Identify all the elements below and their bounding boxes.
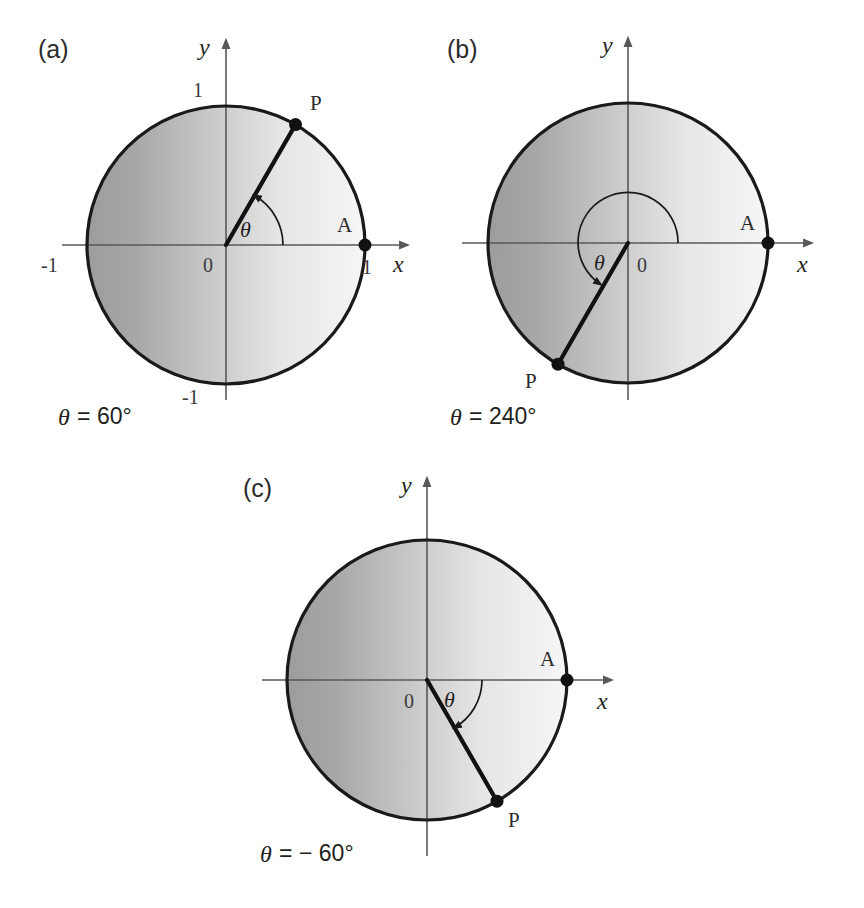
panel-a-theta-label: θ xyxy=(240,217,251,242)
panel-a-point-p xyxy=(289,118,302,131)
panel-b-label: (b) xyxy=(447,35,478,63)
panel-b-point-p xyxy=(552,358,565,371)
panel-a-x-axis-label: x xyxy=(392,251,404,277)
panel-b-caption: θ = 240° xyxy=(450,403,537,430)
panel-a-tick-y-positive: 1 xyxy=(193,79,203,101)
panel-b-x-axis-label: x xyxy=(796,251,808,277)
panel-c-origin-label: 0 xyxy=(404,690,414,712)
figure-container: (a) y x 1 -1 -1 1 0 P A θ θ = 60° xyxy=(0,0,864,908)
panel-c-point-a xyxy=(561,674,574,687)
unit-circle-figure: (a) y x 1 -1 -1 1 0 P A θ θ = 60° xyxy=(0,0,864,908)
panel-a-tick-x-positive: 1 xyxy=(362,256,372,278)
panel-b-point-a xyxy=(762,237,775,250)
panel-a: (a) y x 1 -1 -1 1 0 P A θ θ = 60° xyxy=(38,34,408,430)
panel-a-y-axis-label: y xyxy=(197,34,210,60)
panel-a-caption: θ = 60° xyxy=(58,403,132,430)
panel-a-origin-label: 0 xyxy=(203,254,213,276)
panel-c-label: (c) xyxy=(243,474,272,502)
panel-c-label-p: P xyxy=(508,808,520,832)
panel-b-caption-symbol: θ xyxy=(450,404,462,430)
panel-c: (c) y x 0 P A θ θ = − 60° xyxy=(243,472,612,867)
panel-a-point-a xyxy=(359,239,372,252)
panel-a-label: (a) xyxy=(38,35,69,63)
panel-a-label-p: P xyxy=(310,91,322,115)
panel-c-caption: θ = − 60° xyxy=(260,840,354,867)
panel-b-caption-equals: = xyxy=(469,403,482,429)
panel-b-label-a: A xyxy=(740,211,756,235)
panel-c-point-p xyxy=(491,795,504,808)
panel-b-caption-value: 240° xyxy=(489,403,537,429)
panel-a-tick-x-negative: -1 xyxy=(41,254,58,276)
panel-a-tick-y-negative: -1 xyxy=(182,386,199,408)
panel-b-theta-label: θ xyxy=(594,250,605,275)
panel-c-caption-equals: = xyxy=(279,840,292,866)
panel-c-label-a: A xyxy=(540,647,556,671)
panel-b-origin-label: 0 xyxy=(637,254,647,276)
panel-c-x-axis-label: x xyxy=(596,688,608,714)
panel-a-caption-value: 60° xyxy=(97,403,132,429)
panel-b-label-p: P xyxy=(525,369,537,393)
panel-c-caption-symbol: θ xyxy=(260,841,272,867)
panel-c-theta-label: θ xyxy=(444,687,455,712)
panel-a-label-a: A xyxy=(337,213,353,237)
panel-c-y-axis-label: y xyxy=(399,472,412,498)
panel-a-caption-equals: = xyxy=(77,403,90,429)
panel-b: (b) y x 0 P A θ θ = 240° xyxy=(447,32,812,430)
panel-b-y-axis-label: y xyxy=(600,32,613,58)
panel-a-caption-symbol: θ xyxy=(58,404,70,430)
panel-c-caption-value: − 60° xyxy=(299,840,354,866)
